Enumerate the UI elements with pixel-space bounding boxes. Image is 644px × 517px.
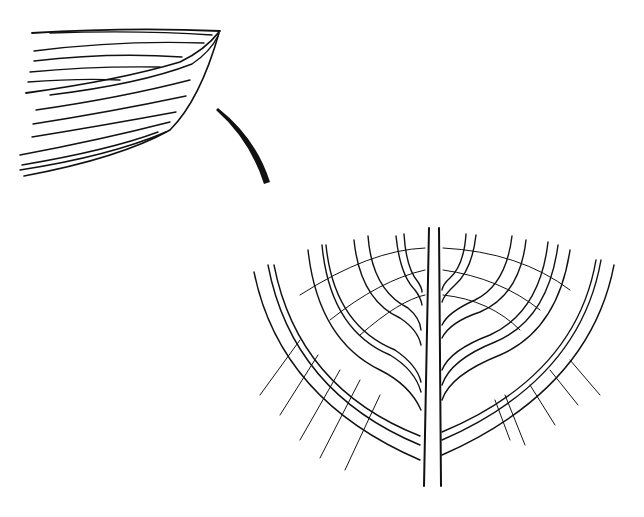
hull-side-view	[20, 29, 220, 176]
body-plan	[254, 228, 614, 486]
hull-drawing	[0, 0, 644, 517]
stem-piece	[216, 108, 270, 184]
